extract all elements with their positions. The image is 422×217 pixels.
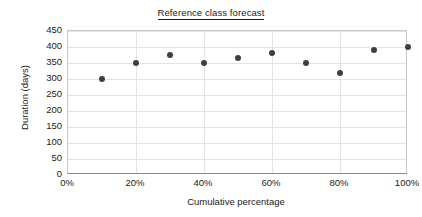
data-point: [371, 47, 377, 53]
gridline-horizontal: [68, 159, 406, 160]
data-point: [99, 76, 105, 82]
x-axis-tick-labels: 0%20%40%60%80%100%: [67, 177, 407, 191]
y-axis-tick-label: 100: [16, 137, 62, 147]
y-axis-tick-label: 150: [16, 121, 62, 131]
x-axis-title: Cumulative percentage: [56, 196, 416, 207]
data-point: [405, 44, 411, 50]
y-axis-tick-label: 250: [16, 89, 62, 99]
x-axis-tick-label: 0%: [42, 177, 92, 188]
data-point: [235, 55, 241, 61]
reference-class-forecast-chart: Reference class forecast Duration (days)…: [0, 0, 422, 217]
plot-area: [67, 30, 407, 174]
gridline-horizontal: [68, 79, 406, 80]
y-axis-tick-label: 200: [16, 105, 62, 115]
y-axis-tick-labels: 050100150200250300350400450: [14, 30, 62, 174]
data-point: [201, 60, 207, 66]
x-axis-tick-label: 100%: [382, 177, 422, 188]
gridline-horizontal: [68, 143, 406, 144]
x-axis-line: [67, 173, 407, 174]
gridline-vertical: [340, 31, 341, 173]
gridline-horizontal: [68, 95, 406, 96]
y-axis-tick-label: 400: [16, 41, 62, 51]
gridline-horizontal: [68, 111, 406, 112]
data-point: [337, 70, 343, 76]
data-point: [133, 60, 139, 66]
gridline-vertical: [204, 31, 205, 173]
data-point: [167, 52, 173, 58]
y-axis-tick-label: 350: [16, 57, 62, 67]
chart-title-text: Reference class forecast: [158, 7, 265, 20]
y-axis-tick-label: 300: [16, 73, 62, 83]
chart-title: Reference class forecast: [0, 7, 422, 20]
gridline-horizontal: [68, 47, 406, 48]
x-axis-tick-label: 40%: [178, 177, 228, 188]
gridline-horizontal: [68, 63, 406, 64]
y-axis-tick-label: 50: [16, 153, 62, 163]
y-axis-tick-label: 450: [16, 25, 62, 35]
gridline-horizontal: [68, 31, 406, 32]
gridline-vertical: [136, 31, 137, 173]
gridline-horizontal: [68, 127, 406, 128]
x-axis-tick-label: 60%: [246, 177, 296, 188]
x-axis-tick-label: 80%: [314, 177, 364, 188]
x-axis-tick-label: 20%: [110, 177, 160, 188]
data-point: [269, 50, 275, 56]
data-point: [303, 60, 309, 66]
